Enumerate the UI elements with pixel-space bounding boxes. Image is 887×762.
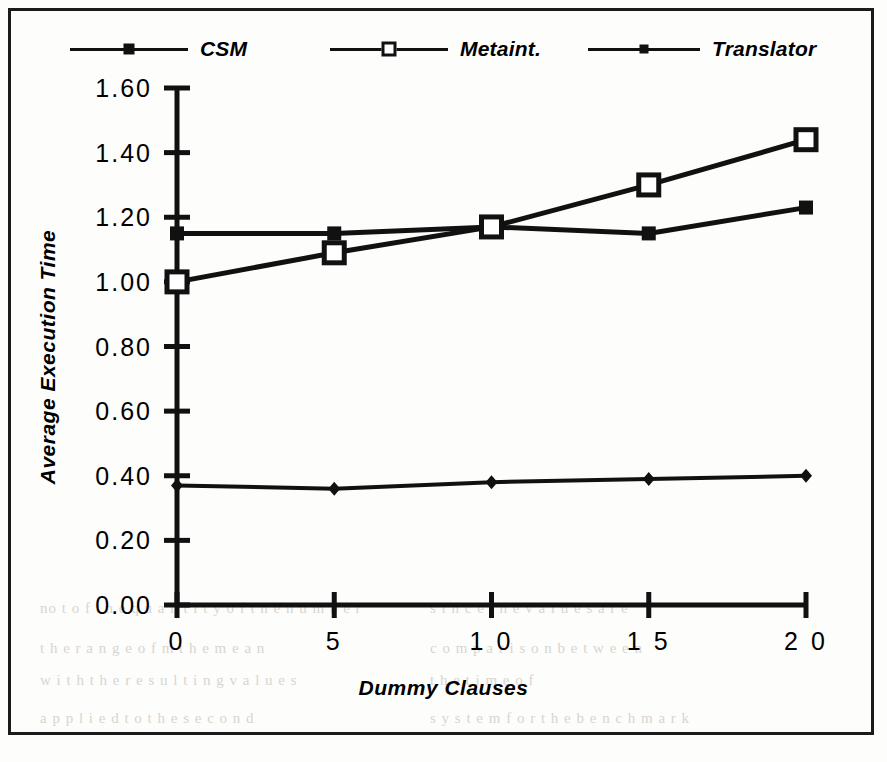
legend-sample-csm — [70, 42, 188, 56]
x-tick-label: 1 0 — [457, 627, 527, 656]
legend-entry-csm: CSM — [70, 30, 247, 68]
x-tick-label: 2 0 — [771, 627, 841, 656]
x-axis-title: Dummy Clauses — [0, 676, 887, 700]
open-square-icon — [382, 42, 397, 57]
x-tick-label: 0 — [142, 627, 212, 656]
legend-entry-translator: Translator — [588, 30, 816, 68]
x-tick-label: 5 — [299, 627, 369, 656]
figure-container: no t o f t h e q u a n t i t y o f t h e… — [0, 0, 887, 762]
y-axis-title: Average Execution Time — [36, 227, 60, 487]
legend-label-csm: CSM — [200, 37, 247, 61]
legend-entry-metaint: Metaint. — [330, 30, 541, 68]
y-tick-label: 1.40 — [42, 138, 152, 167]
y-tick-label: 0.20 — [42, 526, 152, 555]
legend-sample-translator — [588, 42, 700, 56]
x-tick-label: 1 5 — [614, 627, 684, 656]
legend-sample-metaint — [330, 42, 448, 56]
diamond-icon — [640, 45, 649, 54]
legend-label-translator: Translator — [712, 37, 816, 61]
y-tick-label: 0.00 — [42, 591, 152, 620]
filled-square-icon — [124, 44, 135, 55]
y-tick-label: 1.60 — [42, 74, 152, 103]
chart-legend: CSM Metaint. Translator — [0, 30, 887, 68]
legend-label-metaint: Metaint. — [460, 37, 541, 61]
figure-border — [8, 8, 874, 735]
